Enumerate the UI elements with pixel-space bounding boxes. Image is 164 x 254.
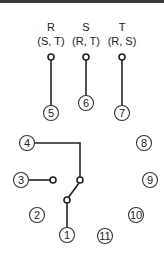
pin-3: 3 [14, 173, 29, 188]
pin-6: 6 [79, 96, 94, 111]
label-sub-t: (R, S) [108, 35, 137, 47]
terminal-s-icon [83, 54, 89, 60]
pin-1: 1 [60, 228, 75, 243]
contact-common-icon [64, 197, 70, 203]
svg-text:7: 7 [119, 107, 125, 119]
svg-text:10: 10 [130, 209, 142, 221]
pin-5: 5 [44, 106, 59, 121]
label-phase-t: T [119, 21, 126, 33]
svg-text:4: 4 [24, 137, 30, 149]
pin-9: 9 [143, 173, 158, 188]
pin-2: 2 [30, 208, 45, 223]
switch-blade [68, 183, 79, 198]
pin-4: 4 [20, 136, 35, 151]
label-phase-r: R [47, 21, 55, 33]
svg-text:11: 11 [99, 230, 110, 242]
contact-no-icon [77, 177, 83, 183]
contact-nc-icon [50, 177, 56, 183]
svg-text:1: 1 [64, 229, 70, 241]
label-phase-s: S [82, 21, 89, 33]
pin-10: 10 [129, 208, 144, 223]
svg-text:9: 9 [147, 174, 153, 186]
label-sub-s: (R, T) [72, 35, 100, 47]
svg-text:5: 5 [48, 107, 54, 119]
wiring-diagram: R S T (S, T) (R, T) (R, S) 5 6 7 4 8 3 [0, 0, 164, 254]
svg-text:6: 6 [83, 97, 89, 109]
pin-11: 11 [98, 229, 113, 244]
svg-text:3: 3 [18, 174, 24, 186]
pin-7: 7 [115, 106, 130, 121]
label-sub-r: (S, T) [37, 35, 64, 47]
terminal-t-icon [119, 54, 125, 60]
wire-4-to-switch [34, 143, 80, 177]
svg-text:2: 2 [34, 209, 40, 221]
pin-8: 8 [137, 136, 152, 151]
terminal-r-icon [48, 54, 54, 60]
svg-text:8: 8 [141, 137, 147, 149]
